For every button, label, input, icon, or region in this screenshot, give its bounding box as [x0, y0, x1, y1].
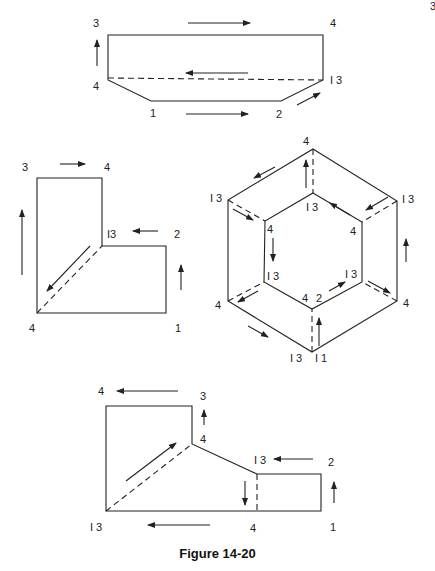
- top-figure: 3 4 4 I 3 1 2: [93, 17, 342, 120]
- figure-caption: Figure 14-20: [0, 546, 435, 561]
- bottom-figure-fold-line: [106, 444, 192, 511]
- bottom-figure: 4 3 4 I 3 2 I 3 4 1: [90, 385, 336, 534]
- vertex-label: 4: [303, 135, 309, 147]
- vertex-label: 1: [175, 322, 181, 334]
- arrow-diagonal-icon: [329, 282, 345, 291]
- arrow-diagonal-icon: [254, 167, 275, 178]
- left-figure: 3 4 I3 2 4 1: [22, 161, 181, 334]
- vertex-label: 2: [328, 456, 334, 468]
- vertex-label: 4: [93, 80, 99, 92]
- vertex-label: 3: [22, 161, 28, 173]
- left-figure-fold-line: [37, 246, 102, 313]
- vertex-label: 4: [302, 292, 308, 304]
- vertex-label: 2: [316, 292, 322, 304]
- vertex-label: I 1: [315, 352, 327, 364]
- arrow-diagonal-icon: [233, 209, 253, 220]
- vertex-label: 4: [200, 433, 206, 445]
- vertex-label: 4: [350, 225, 356, 237]
- vertex-label: 2: [174, 228, 180, 240]
- vertex-label: 3: [93, 17, 99, 29]
- vertex-label: I 3: [290, 352, 302, 364]
- vertex-label: 2: [276, 108, 282, 120]
- arrow-diagonal-icon: [330, 203, 350, 215]
- vertex-label: I 3: [210, 192, 222, 204]
- vertex-label: 4: [215, 299, 221, 311]
- top-figure-outline: [108, 35, 323, 101]
- vertex-label: 4: [403, 297, 409, 309]
- left-figure-outline: [37, 178, 166, 313]
- vertex-label: 4: [29, 322, 35, 334]
- top-figure-fold-line: [108, 78, 323, 80]
- vertex-label: 1: [150, 107, 156, 119]
- vertex-label: I3: [107, 228, 116, 240]
- connector-dashed: [362, 282, 397, 301]
- connector-dashed: [362, 201, 397, 222]
- vertex-label: I 3: [306, 201, 318, 213]
- figure-canvas: 3 4 4 I 3 1 2 3 4 I3 2 4 1: [0, 0, 435, 571]
- vertex-label: 4: [330, 17, 336, 29]
- vertex-label: I 3: [402, 193, 414, 205]
- arrow-diagonal-icon: [248, 326, 268, 337]
- vertex-label: 4: [104, 161, 110, 173]
- arrow-diagonal-icon: [238, 291, 258, 302]
- vertex-label: I 3: [90, 521, 102, 533]
- arrow-diagonal-icon: [126, 443, 176, 481]
- arrow-diagonal-icon: [47, 246, 90, 291]
- vertex-label: 3: [200, 390, 206, 402]
- vertex-label: I 3: [345, 268, 357, 280]
- connector-dashed: [228, 200, 265, 221]
- vertex-label: 4: [98, 385, 104, 397]
- vertex-label: 4: [267, 223, 273, 235]
- vertex-label: 1: [330, 521, 336, 533]
- vertex-label: I 3: [267, 270, 279, 282]
- hexagon-figure: 4 I 3 I 3 4 4 I 3 I 1 I 3 4 4 I 3 I 3 4 …: [210, 135, 414, 364]
- vertex-label: 4: [250, 522, 256, 534]
- arrow-diagonal-icon: [297, 93, 320, 105]
- vertex-label: I 3: [254, 454, 266, 466]
- vertex-label: I 3: [330, 74, 342, 86]
